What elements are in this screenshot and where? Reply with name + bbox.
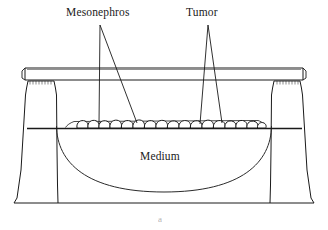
label-tumor: Tumor bbox=[186, 6, 218, 18]
dish-diagram-svg bbox=[0, 0, 328, 230]
tissue-explant-cluster bbox=[77, 120, 266, 128]
figure-caption: a bbox=[158, 214, 162, 224]
left-rim-hatching bbox=[30, 81, 51, 85]
tumor-leader-lines bbox=[200, 25, 222, 124]
dish-left-wall bbox=[14, 81, 58, 203]
dish-right-wall bbox=[270, 81, 314, 203]
label-medium: Medium bbox=[140, 150, 180, 162]
dish-lid bbox=[25, 68, 303, 80]
organ-culture-dish-figure: Mesonephros Tumor Medium a bbox=[0, 0, 328, 230]
mesonephros-leader-lines bbox=[99, 25, 137, 124]
right-rim-hatching bbox=[277, 81, 298, 85]
label-mesonephros: Mesonephros bbox=[66, 6, 130, 18]
